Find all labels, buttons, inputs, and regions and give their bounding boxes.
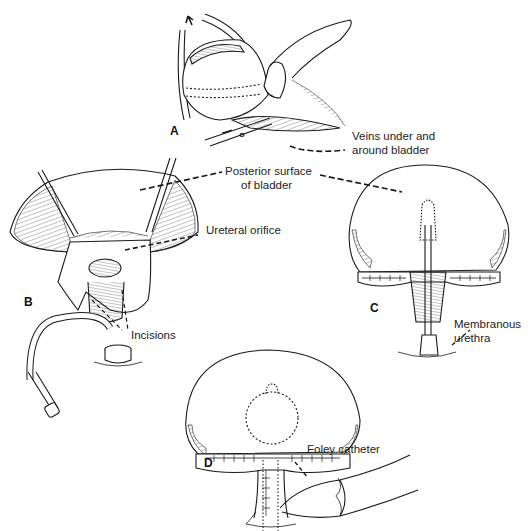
label-posterior-line1: Posterior surface [225,165,312,178]
panel-letter-c: C [370,301,379,315]
panel-letter-d: D [204,456,213,470]
label-veins-line1: Veins under and [352,130,435,143]
label-membranous-line1: Membranous [454,318,521,331]
label-incisions: Incisions [131,329,176,342]
label-foley-catheter: Foley catheter [307,443,380,456]
label-veins-line2: around bladder [352,144,429,157]
label-ureteral-orifice: Ureteral orifice [206,224,281,237]
label-posterior-line2: of bladder [241,179,292,192]
panel-d-drawing [186,350,418,531]
label-membranous-line2: urethra [454,332,490,345]
panel-letter-b: B [24,295,33,309]
panel-letter-a: A [170,124,179,138]
surgical-illustration [0,0,530,531]
panel-b-drawing [10,158,198,418]
panel-a-drawing [178,14,351,151]
